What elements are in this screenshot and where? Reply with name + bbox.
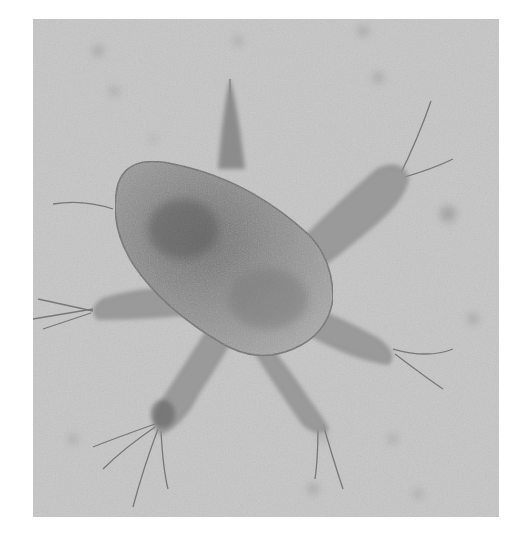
nauplius-larva-illustration [33,19,499,517]
micrograph-photo [33,19,499,517]
